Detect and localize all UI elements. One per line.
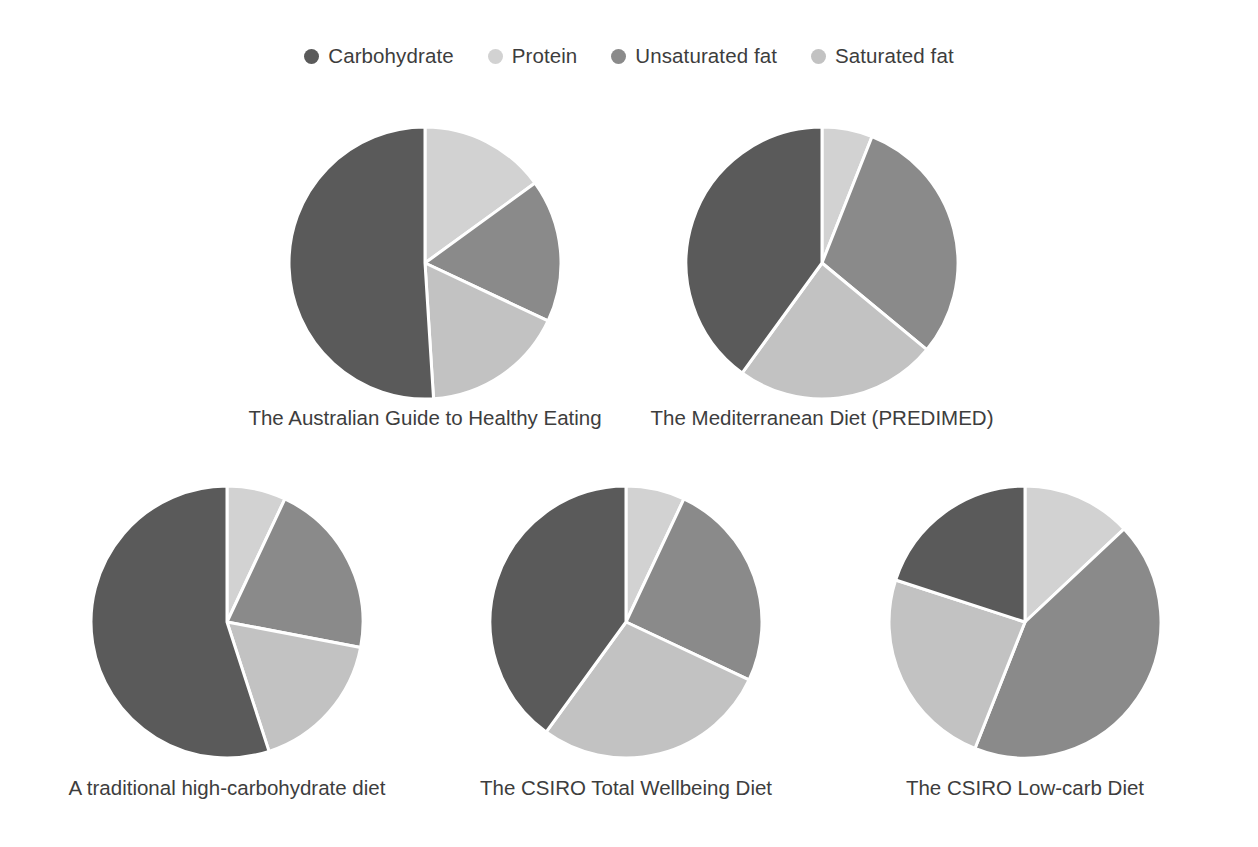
pie-chart-grid: The Australian Guide to Healthy EatingTh… <box>0 0 1258 847</box>
pie-chart-4: The CSIRO Total Wellbeing Diet <box>486 482 766 799</box>
pie-chart-3: A traditional high-carbohydrate diet <box>87 482 367 799</box>
pie-slice-carbohydrate <box>289 127 434 399</box>
pie-chart-1: The Australian Guide to Healthy Eating <box>285 123 565 429</box>
pie-caption-2: The Mediterranean Diet (PREDIMED) <box>651 408 994 429</box>
pie-svg-1 <box>285 123 565 403</box>
pie-caption-4: The CSIRO Total Wellbeing Diet <box>480 778 772 799</box>
pie-chart-2: The Mediterranean Diet (PREDIMED) <box>682 123 962 429</box>
pie-svg-2 <box>682 123 962 403</box>
pie-caption-3: A traditional high-carbohydrate diet <box>69 778 386 799</box>
pie-svg-4 <box>486 482 766 762</box>
pie-chart-5: The CSIRO Low-carb Diet <box>885 482 1165 799</box>
pie-svg-5 <box>885 482 1165 762</box>
pie-caption-5: The CSIRO Low-carb Diet <box>906 778 1144 799</box>
pie-caption-1: The Australian Guide to Healthy Eating <box>248 408 601 429</box>
pie-svg-3 <box>87 482 367 762</box>
